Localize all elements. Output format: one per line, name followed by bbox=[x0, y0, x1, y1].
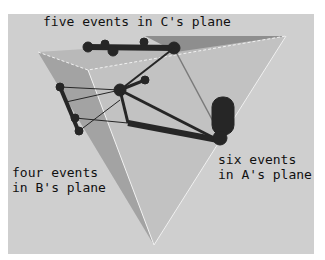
label-b-plane-line2: in B's plane bbox=[12, 180, 106, 195]
tetrahedron-diagram bbox=[0, 0, 325, 260]
plane-a bbox=[88, 36, 286, 245]
label-a-plane-line1: six events bbox=[218, 152, 296, 167]
label-c-plane: five events in C's plane bbox=[43, 14, 231, 29]
label-a-plane-line2: in A's plane bbox=[218, 167, 312, 182]
label-b-plane-line1: four events bbox=[12, 165, 98, 180]
